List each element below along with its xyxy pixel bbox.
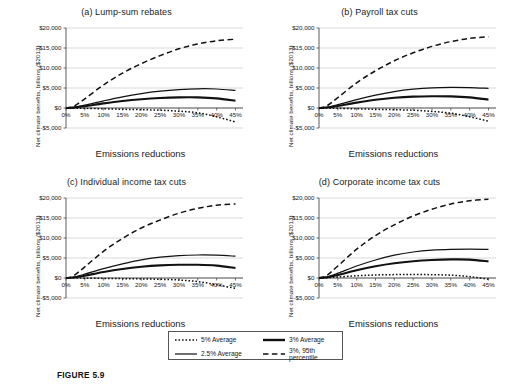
y-tick-label: $15,000 — [39, 214, 62, 221]
y-tick-label: -$5,000 — [294, 294, 316, 301]
x-tick-label: 20% — [388, 281, 401, 288]
x-tick-label: 30% — [173, 111, 186, 118]
y-tick-label: $10,000 — [292, 64, 315, 71]
x-tick-label: 0% — [62, 111, 71, 118]
y-tick-label: $20,000 — [292, 194, 315, 201]
x-tick-label: 30% — [173, 281, 186, 288]
x-tick-label: 30% — [426, 281, 439, 288]
x-tick-label: 5% — [80, 111, 89, 118]
x-tick-label: 0% — [315, 111, 324, 118]
y-tick-label: $15,000 — [292, 214, 315, 221]
x-axis-label: Emissions reductions — [14, 148, 267, 159]
series-3pct-95th-percentile — [319, 199, 488, 278]
legend-item-5pct-average: 5% Average — [169, 336, 257, 343]
panel-a-lump-sum-rebates: (a) Lump-sum rebates $20,000$15,000$10,0… — [0, 0, 253, 170]
y-tick-label: $15,000 — [292, 44, 315, 51]
x-axis-label: Emissions reductions — [267, 148, 506, 159]
x-tick-label: 20% — [135, 111, 148, 118]
series-3pct-average — [319, 96, 488, 108]
x-axis: 0%5%10%15%20%25%30%35%40%45% — [62, 108, 243, 118]
thin-solid-line-icon — [174, 351, 198, 357]
x-tick-label: 25% — [407, 111, 420, 118]
x-tick-label: 5% — [333, 281, 342, 288]
y-tick-label: -$5,000 — [41, 294, 63, 301]
figure-5-9: (a) Lump-sum rebates $20,000$15,000$10,0… — [0, 0, 506, 385]
legend-label: 3% Average — [289, 336, 324, 343]
y-tick-label: $15,000 — [39, 44, 62, 51]
y-tick-label: $10,000 — [39, 234, 62, 241]
y-tick-label: $5,000 — [43, 84, 62, 91]
y-tick-label: $5,000 — [296, 254, 315, 261]
x-tick-label: 20% — [388, 111, 401, 118]
legend-label: 5% Average — [201, 336, 236, 343]
panel-d-corporate-income-tax-cuts: (d) Corporate income tax cuts $20,000$15… — [253, 170, 506, 340]
x-tick-label: 35% — [445, 281, 458, 288]
y-axis-label: Net climate benefits, billions ($2013) — [34, 45, 41, 147]
x-tick-label: 10% — [350, 281, 363, 288]
y-tick-label: $10,000 — [39, 64, 62, 71]
legend-item-25pct-average: 2.5% Average — [169, 350, 257, 357]
x-tick-label: 40% — [463, 281, 476, 288]
x-tick-label: 25% — [154, 111, 167, 118]
x-axis: 0%5%10%15%20%25%30%35%40%45% — [62, 278, 243, 288]
y-tick-label: $5,000 — [43, 254, 62, 261]
thick-solid-line-icon — [262, 337, 286, 343]
y-tick-label: $10,000 — [292, 234, 315, 241]
x-axis: 0%5%10%15%20%25%30%35%40%45% — [315, 108, 496, 118]
x-tick-label: 45% — [482, 111, 495, 118]
legend-label: 3%, 95th percentile — [289, 347, 344, 361]
x-tick-label: 15% — [369, 281, 382, 288]
legend-item-3pct-average: 3% Average — [257, 336, 344, 343]
x-axis: 0%5%10%15%20%25%30%35%40%45% — [315, 278, 496, 288]
x-tick-label: 10% — [97, 111, 110, 118]
series-3pct-average — [66, 97, 235, 108]
y-axis-label: Net climate benefits, billions ($2013) — [34, 215, 41, 317]
x-tick-label: 15% — [369, 111, 382, 118]
y-axis-label: Net climate benefits, billions ($2013) — [287, 215, 294, 317]
panel-c-individual-income-tax-cuts: (c) Individual income tax cuts $20,000$1… — [0, 170, 253, 340]
x-tick-label: 10% — [350, 111, 363, 118]
x-tick-label: 35% — [192, 111, 205, 118]
dotted-line-icon — [174, 337, 198, 343]
x-tick-label: 0% — [315, 281, 324, 288]
y-tick-label: $20,000 — [39, 194, 62, 201]
x-tick-label: 45% — [229, 111, 242, 118]
legend-label: 2.5% Average — [201, 350, 242, 357]
panel-b-payroll-tax-cuts: (b) Payroll tax cuts $20,000$15,000$10,0… — [253, 0, 506, 170]
x-tick-label: 10% — [97, 281, 110, 288]
x-tick-label: 20% — [135, 281, 148, 288]
x-tick-label: 15% — [116, 111, 129, 118]
y-tick-label: $20,000 — [39, 24, 62, 31]
x-tick-label: 15% — [116, 281, 129, 288]
chart-legend: 5% Average 3% Average 2.5% Average 3%, 9… — [168, 331, 343, 360]
x-axis-label: Emissions reductions — [14, 318, 267, 329]
x-tick-label: 0% — [62, 281, 71, 288]
series-5pct-average — [319, 274, 488, 279]
x-tick-label: 5% — [333, 111, 342, 118]
series-3pct-average — [66, 265, 235, 278]
x-tick-label: 25% — [154, 281, 167, 288]
figure-caption: FIGURE 5.9 — [57, 370, 105, 380]
dashed-line-icon — [262, 351, 286, 357]
legend-item-3pct-95th-percentile: 3%, 95th percentile — [257, 347, 344, 361]
x-tick-label: 45% — [482, 281, 495, 288]
y-axis-label: Net climate benefits, billions ($2013) — [287, 45, 294, 147]
y-tick-label: -$5,000 — [294, 124, 316, 131]
x-tick-label: 5% — [80, 281, 89, 288]
x-axis-label: Emissions reductions — [267, 318, 506, 329]
y-tick-label: $5,000 — [296, 84, 315, 91]
y-tick-label: -$5,000 — [41, 124, 63, 131]
x-tick-label: 25% — [407, 281, 420, 288]
y-tick-label: $20,000 — [292, 24, 315, 31]
